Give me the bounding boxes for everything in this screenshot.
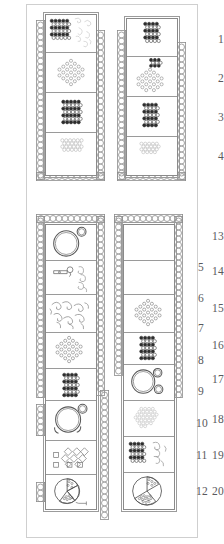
diamond-lattice-beadwork-icon	[46, 53, 96, 92]
hatched-disc-icon	[46, 475, 96, 509]
pin-brooch-icon	[46, 261, 96, 294]
column-cells	[45, 14, 97, 176]
cell-tr-4[interactable]	[127, 137, 177, 175]
row-label-7: 7	[198, 323, 224, 335]
scroll-wire-spirals-icon	[46, 295, 96, 332]
row-label-2: 2	[200, 73, 224, 85]
diamond-lattice-beadwork-icon	[127, 57, 177, 96]
cell-tr-1[interactable]	[127, 19, 177, 57]
column-cells	[123, 224, 175, 510]
row-label-12: 12	[196, 486, 222, 498]
cell-3[interactable]	[46, 93, 96, 133]
row-label-16: 16	[200, 340, 224, 352]
light-beadwork-band-icon	[46, 133, 96, 175]
cell-9[interactable]	[124, 365, 174, 401]
row-label-3: 3	[200, 112, 224, 124]
bead-and-square-row-icon	[46, 441, 96, 474]
light-beadwork-cluster-icon	[124, 401, 174, 436]
row-label-11: 11	[196, 450, 222, 462]
cell-1[interactable]	[46, 15, 96, 53]
crescent-fragment	[77, 426, 81, 432]
figure-plate: 1 2 3 4 13 14 15 16 17 18 19 20 5 6 7 8 …	[0, 0, 224, 544]
row-label-17: 17	[200, 374, 224, 386]
row-label-6: 6	[198, 293, 224, 305]
cell-4[interactable]	[46, 133, 96, 175]
cell-5[interactable]	[124, 225, 174, 261]
cell-8[interactable]	[124, 333, 174, 365]
cell-tr-2[interactable]	[127, 57, 177, 97]
row-label-10: 10	[196, 418, 222, 430]
bottom-right-column[interactable]	[123, 224, 175, 510]
cell-13[interactable]	[46, 225, 96, 261]
dense-beadwork-rectangle-icon	[127, 19, 177, 56]
cell-20[interactable]	[46, 475, 96, 509]
cell-15[interactable]	[46, 295, 96, 333]
cell-16[interactable]	[46, 333, 96, 369]
cell-tr-3[interactable]	[127, 97, 177, 137]
dense-beadwork-rectangle-icon	[124, 333, 174, 364]
large-ring-icon	[124, 365, 174, 400]
bottom-left-column[interactable]	[45, 224, 97, 510]
row-label-15: 15	[200, 303, 224, 315]
dense-beadwork-rectangle-icon	[46, 369, 96, 400]
cell-18[interactable]	[46, 401, 96, 441]
dense-beadwork-rectangle-icon	[127, 97, 177, 136]
column-cells	[126, 18, 178, 176]
cell-17[interactable]	[46, 369, 96, 401]
crescent-fragment	[55, 427, 59, 433]
top-left-column[interactable]	[45, 14, 97, 176]
large-ring-icon	[46, 401, 96, 440]
row-label-8: 8	[198, 355, 224, 367]
small-pin-icon	[76, 501, 87, 505]
large-ring-icon	[46, 225, 96, 260]
column-cells	[45, 224, 97, 510]
dense-beadwork-rectangle-icon	[46, 93, 96, 132]
cell-7[interactable]	[124, 295, 174, 333]
row-label-9: 9	[198, 386, 224, 398]
cell-12[interactable]	[124, 473, 174, 509]
cell-11[interactable]	[124, 437, 174, 473]
cell-2[interactable]	[46, 53, 96, 93]
cell-14[interactable]	[46, 261, 96, 295]
cell-6[interactable]	[124, 261, 174, 295]
row-label-13: 13	[200, 231, 224, 243]
cell-19[interactable]	[46, 441, 96, 475]
diamond-lattice-beadwork-icon	[46, 333, 96, 368]
cell-10[interactable]	[124, 401, 174, 437]
top-right-column[interactable]	[126, 18, 178, 176]
hatched-disc-icon	[124, 473, 174, 509]
dense-beadwork-rectangle-icon	[46, 15, 96, 52]
spiral-chain-icon	[78, 267, 87, 292]
diamond-lattice-beadwork-icon	[124, 295, 174, 332]
spiral-chain-icon	[153, 442, 166, 466]
row-label-5: 5	[198, 262, 224, 274]
row-label-4: 4	[200, 151, 224, 163]
dense-beadwork-rectangle-icon	[124, 437, 174, 472]
row-label-1: 1	[200, 34, 224, 46]
light-beadwork-band-icon	[127, 137, 177, 175]
